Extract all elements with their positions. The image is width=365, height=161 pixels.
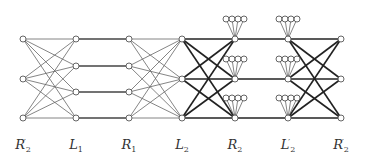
pendant-leaf-node [229, 56, 235, 62]
graph-node [338, 36, 344, 42]
pendant-leaf-node [223, 56, 229, 62]
graph-node [232, 36, 238, 42]
graph-node [179, 76, 185, 82]
graph-node [285, 115, 291, 121]
pendant-leaf-node [276, 16, 282, 22]
pendant-leaf-node [235, 56, 241, 62]
edge [23, 39, 76, 66]
pendant-leaf-node [235, 95, 241, 101]
graph-node [20, 115, 26, 121]
graph-node [126, 36, 132, 42]
pendant-leaf-node [294, 95, 300, 101]
layered-graph-diagram: R′2L1R1L2R2L′2R′2 [0, 0, 365, 161]
pendant-leaf-node [223, 95, 229, 101]
pendant-leaf-node [294, 16, 300, 22]
graph-node [20, 76, 26, 82]
graph-node [20, 36, 26, 42]
graph-node [285, 36, 291, 42]
pendant-leaf-node [288, 56, 294, 62]
graph-node [126, 115, 132, 121]
graph-node [73, 89, 79, 95]
column-label-c1: L1 [69, 137, 83, 154]
column-label-c3: L2 [175, 137, 189, 154]
column-label-c0: R′2 [15, 137, 31, 154]
column-label-c6: R′2 [333, 137, 349, 154]
graph-node [179, 115, 185, 121]
pendant-leaf-node [294, 56, 300, 62]
pendant-leaf-node [229, 16, 235, 22]
edge [129, 66, 182, 118]
column-label-c4: R2 [228, 137, 243, 154]
pendant-leaf-node [282, 16, 288, 22]
edge [23, 66, 76, 118]
edge [129, 39, 182, 92]
edge [23, 79, 76, 92]
pendant-leaf-node [288, 16, 294, 22]
pendant-leaf-node [241, 56, 247, 62]
edge [129, 39, 182, 66]
edge [23, 79, 76, 118]
pendant-leaf-node [282, 95, 288, 101]
column-label-c5: L′2 [281, 137, 296, 154]
edge [129, 79, 182, 92]
pendant-leaf-node [276, 95, 282, 101]
pendant-leaf-node [276, 56, 282, 62]
edge [23, 39, 76, 79]
edge [23, 39, 76, 92]
graph-node [73, 63, 79, 69]
column-label-c2: R1 [122, 137, 137, 154]
edge [129, 79, 182, 118]
graph-node [232, 115, 238, 121]
pendant-leaf-node [282, 56, 288, 62]
graph-node [338, 115, 344, 121]
graph-node [232, 76, 238, 82]
edge [23, 92, 76, 118]
graph-node [126, 63, 132, 69]
graph-node [73, 36, 79, 42]
pendant-leaf-node [288, 95, 294, 101]
pendant-leaf-node [223, 16, 229, 22]
edge [129, 92, 182, 118]
pendant-leaf-node [241, 95, 247, 101]
graph-node [285, 76, 291, 82]
pendant-leaf-node [229, 95, 235, 101]
pendant-leaf-node [241, 16, 247, 22]
graph-node [73, 115, 79, 121]
graph-node [179, 36, 185, 42]
edge [129, 39, 182, 79]
graph-node [126, 89, 132, 95]
graph-node [338, 76, 344, 82]
pendant-leaf-node [235, 16, 241, 22]
